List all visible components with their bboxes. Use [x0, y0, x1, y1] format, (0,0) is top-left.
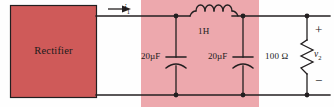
node-dot-bottom-load — [305, 93, 310, 98]
voltage-subscript: 2 — [318, 54, 321, 61]
node-dot-top-right — [241, 14, 246, 19]
current-subscript: 1 — [127, 8, 130, 15]
output-voltage-label: v2 — [314, 50, 321, 61]
rectifier-block-label: Rectifier — [10, 46, 97, 57]
capacitor-right-value-label: 20µF — [208, 52, 227, 61]
polarity-plus-sign: + — [315, 23, 322, 36]
node-dot-bottom-right — [241, 93, 246, 98]
circuit-diagram: Rectifier i1 1H 20µF 20µF 100 Ω v2 + − — [0, 0, 334, 107]
polarity-minus-sign: − — [315, 74, 322, 87]
inductor-value-label: 1H — [198, 27, 210, 36]
node-dot-top-left — [174, 14, 179, 19]
capacitor-left-value-label: 20µF — [141, 52, 160, 61]
node-dot-top-load — [305, 14, 310, 19]
resistor-value-label: 100 Ω — [265, 52, 288, 61]
resistor-100-ohm-symbol — [301, 40, 313, 74]
current-label-i1: i1 — [124, 4, 130, 15]
node-dot-bottom-left — [174, 93, 179, 98]
